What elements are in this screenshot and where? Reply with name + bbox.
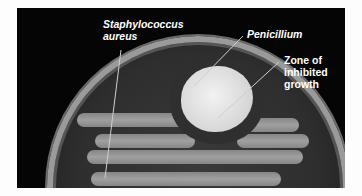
label-staphylococcus-aureus: Staphylococcus aureus bbox=[103, 18, 184, 42]
label-penicillium: Penicillium bbox=[247, 28, 302, 40]
petri-dish-photo: Staphylococcus aureus Penicillium Zone o… bbox=[17, 8, 345, 188]
label-zone-of-inhibited-growth: Zone of inhibited growth bbox=[284, 54, 328, 90]
